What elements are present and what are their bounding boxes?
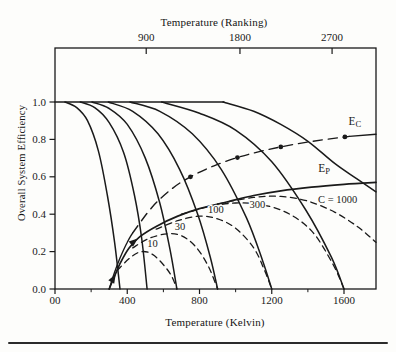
x-tick-label: 800 <box>191 294 208 306</box>
carnot-point-marker <box>278 144 283 149</box>
curve-value-label: 300 <box>249 199 265 210</box>
overall-C300-curve <box>181 203 344 289</box>
x-tick-label: 1200 <box>261 294 284 306</box>
collector-C3-curve <box>80 102 147 289</box>
x-tick-label: 1600 <box>333 294 356 306</box>
collector-C1-curve <box>65 102 120 289</box>
x2-tick-label: 2700 <box>321 31 344 43</box>
y-tick-label: 0.6 <box>32 170 46 182</box>
curve-value-label: 100 <box>208 204 224 215</box>
y-tick-label: 1.0 <box>32 96 46 108</box>
carnot-point-marker <box>343 135 348 140</box>
efficiency-chart: 0040080012001600900180027001.00.80.60.40… <box>0 0 396 352</box>
y-tick-label: 0.4 <box>32 208 46 220</box>
label-EC: EC <box>348 115 361 130</box>
carnot-point-marker <box>188 174 193 179</box>
x-tick-label: 400 <box>119 294 136 306</box>
curve-value-label: 10 <box>147 238 158 249</box>
carnot-point-marker <box>235 155 240 160</box>
carnot-efficiency-EC-main-curve <box>133 136 350 233</box>
curve-value-label: C = 1000 <box>318 194 357 205</box>
label-EP: EP <box>318 162 330 177</box>
y-tick-label: 0.8 <box>32 133 46 145</box>
carnot-efficiency-EC-end-curve <box>349 134 376 136</box>
y-tick-label: 0.2 <box>32 245 46 257</box>
x-tick-label: 00 <box>50 294 62 306</box>
x2-tick-label: 1800 <box>229 31 252 43</box>
curve-value-label: 30 <box>175 221 186 232</box>
y-tick-label: 0.0 <box>32 283 46 295</box>
efficiency-figure: Temperature (Ranking) Overall System Eff… <box>0 0 396 352</box>
x2-tick-label: 900 <box>138 31 155 43</box>
